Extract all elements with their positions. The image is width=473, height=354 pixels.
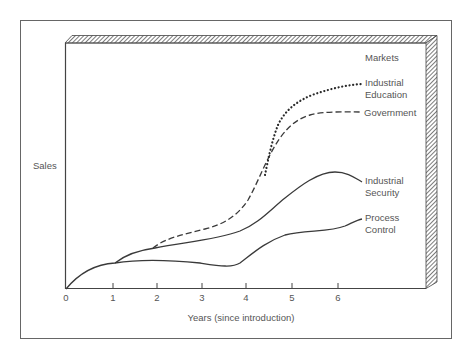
x-tick-labels: 0 1 2 3 4 5 6 <box>63 292 340 303</box>
tick-label-5: 5 <box>289 292 294 303</box>
x-ticks <box>113 283 338 288</box>
chart: 0 1 2 3 4 5 6 Years (since introduction)… <box>0 0 473 354</box>
legend-title: Markets <box>365 52 399 63</box>
series-process-control <box>66 219 362 289</box>
label-industrial-education-line2: Education <box>365 89 407 100</box>
series-industrial-security <box>115 172 362 263</box>
label-industrial-education-line1: Industrial <box>365 77 404 88</box>
y-axis-label: Sales <box>33 160 57 171</box>
tick-label-2: 2 <box>154 292 159 303</box>
series-industrial-education <box>265 84 362 175</box>
tick-label-6: 6 <box>335 292 340 303</box>
x-axis-label: Years (since introduction) <box>188 312 295 323</box>
label-government: Government <box>364 107 417 118</box>
tick-label-0: 0 <box>63 292 68 303</box>
label-industrial-security-line2: Security <box>365 187 400 198</box>
label-process-control-line2: Control <box>365 224 396 235</box>
hatched-right-edge <box>426 36 437 289</box>
tick-label-1: 1 <box>110 292 115 303</box>
label-process-control-line1: Process <box>365 212 400 223</box>
tick-label-4: 4 <box>243 292 248 303</box>
label-industrial-security-line1: Industrial <box>365 175 404 186</box>
series-government <box>153 112 362 248</box>
tick-label-3: 3 <box>199 292 204 303</box>
hatched-top-edge <box>65 36 437 44</box>
